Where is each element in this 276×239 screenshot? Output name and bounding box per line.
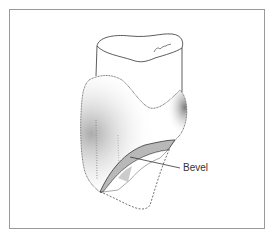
bevel-label: Bevel: [183, 162, 208, 173]
tooth-illustration: [0, 0, 276, 239]
crown-top: [97, 34, 183, 62]
